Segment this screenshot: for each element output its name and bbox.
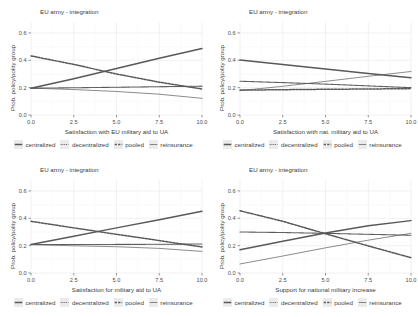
legend-label: reinsurance [160,141,192,148]
x-tick-label: 10.0 [197,277,208,283]
legend-item-decentralized[interactable]: decentralized [60,140,108,149]
legend-item-centralized[interactable]: centralized [14,298,55,307]
y-axis-title: Prob. policy/polity group [218,45,225,111]
x-tick-label: 7.5 [155,119,163,125]
chart-panel-4: EU army - integrationProb. policy/polity… [209,158,418,317]
series-line-decentralized [31,244,202,245]
y-axis-title: Prob. policy/polity group [9,45,16,111]
y-tick-label: 0.2 [228,243,236,249]
legend-key-icon [114,298,123,307]
facet-grid: EU army - integrationProb. policy/polity… [0,0,418,317]
legend-item-centralized[interactable]: centralized [14,140,55,149]
legend-key-icon [60,140,69,149]
legend-item-decentralized[interactable]: decentralized [269,298,317,307]
legend-label: reinsurance [369,299,401,306]
x-tick-label: 10.0 [406,277,417,283]
legend-key-icon [60,298,69,307]
legend-key-icon [14,140,23,149]
x-tick-label: 0.0 [27,119,35,125]
y-tick-label: 0.4 [19,57,27,63]
legend-key-icon [149,140,158,149]
legend-label: pooled [125,141,144,148]
legend-label: pooled [334,299,353,306]
legend-label: pooled [334,141,353,148]
x-tick-label: 5.0 [113,119,121,125]
facet-title: EU army - integration [249,8,307,15]
x-tick-label: 5.0 [113,277,121,283]
legend-key-icon [358,140,367,149]
legend-item-centralized[interactable]: centralized [223,298,264,307]
legend-item-pooled[interactable]: pooled [323,140,353,149]
legend-label: decentralized [281,141,318,148]
chart-panel-1: EU army - integrationProb. policy/polity… [0,0,209,158]
x-tick-label: 5.0 [322,277,330,283]
legend-item-reinsurance[interactable]: reinsurance [358,298,402,307]
legend-key-icon [114,140,123,149]
legend-label: decentralized [72,299,109,306]
legend-label: centralized [235,299,265,306]
facet-title: EU army - integration [249,166,307,173]
x-tick-label: 2.5 [70,119,78,125]
y-axis-title: Prob. policy/polity group [9,203,16,269]
legend-label: centralized [235,141,265,148]
legend-key-icon [323,298,332,307]
y-tick-label: 0.6 [228,30,236,36]
y-tick-label: 0.2 [19,85,27,91]
x-tick-label: 7.5 [364,119,372,125]
x-tick-label: 7.5 [155,277,163,283]
x-tick-label: 10.0 [197,119,208,125]
legend-label: reinsurance [369,141,401,148]
legend-key-icon [223,298,232,307]
legend-key-icon [223,140,232,149]
legend-item-decentralized[interactable]: decentralized [60,298,108,307]
legend-key-icon [358,298,367,307]
y-tick-label: 0.2 [19,243,27,249]
legend-label: centralized [26,141,56,148]
x-axis-title: Support for national military increase [240,286,411,293]
legend-item-pooled[interactable]: pooled [114,140,144,149]
x-axis-title: Satisfaction with nat. military aid to U… [240,128,411,135]
legend-label: pooled [125,299,144,306]
x-tick-label: 10.0 [406,119,417,125]
facet-title: EU army - integration [40,166,98,173]
x-tick-label: 0.0 [27,277,35,283]
x-tick-label: 2.5 [279,119,287,125]
x-tick-label: 0.0 [236,119,244,125]
legend-item-centralized[interactable]: centralized [223,140,264,149]
legend-item-reinsurance[interactable]: reinsurance [149,140,193,149]
chart-panel-2: EU army - integrationProb. policy/polity… [209,0,418,158]
y-tick-label: 0.0 [19,270,27,276]
legend-item-reinsurance[interactable]: reinsurance [358,140,402,149]
y-tick-label: 0.0 [19,112,27,118]
legend-label: decentralized [281,299,318,306]
legend-label: decentralized [72,141,109,148]
legend: centralizeddecentralizedpooledreinsuranc… [223,140,402,149]
legend: centralizeddecentralizedpooledreinsuranc… [223,298,402,307]
x-tick-label: 5.0 [322,119,330,125]
y-tick-label: 0.0 [228,270,236,276]
x-axis-title: Satisfaction with EU military aid to UA [31,128,202,135]
x-tick-label: 2.5 [279,277,287,283]
y-tick-label: 0.6 [19,30,27,36]
legend-label: centralized [26,299,56,306]
plot-area: 0.00.20.40.60.02.55.07.510.0 [209,158,418,317]
y-tick-label: 0.6 [228,188,236,194]
legend: centralizeddecentralizedpooledreinsuranc… [14,140,193,149]
legend-item-decentralized[interactable]: decentralized [269,140,317,149]
x-axis-title: Satisfaction for military aid to UA [31,286,202,293]
legend-key-icon [14,298,23,307]
y-tick-label: 0.4 [228,215,236,221]
x-tick-label: 7.5 [364,277,372,283]
legend-item-pooled[interactable]: pooled [114,298,144,307]
legend-item-reinsurance[interactable]: reinsurance [149,298,193,307]
y-axis-title: Prob. policy/polity group [218,203,225,269]
y-tick-label: 0.4 [19,215,27,221]
chart-panel-3: EU army - integrationProb. policy/polity… [0,158,209,317]
y-tick-label: 0.4 [228,57,236,63]
facet-title: EU army - integration [40,8,98,15]
legend-item-pooled[interactable]: pooled [323,298,353,307]
legend-key-icon [149,298,158,307]
y-tick-label: 0.6 [19,188,27,194]
legend-key-icon [323,140,332,149]
y-tick-label: 0.0 [228,112,236,118]
